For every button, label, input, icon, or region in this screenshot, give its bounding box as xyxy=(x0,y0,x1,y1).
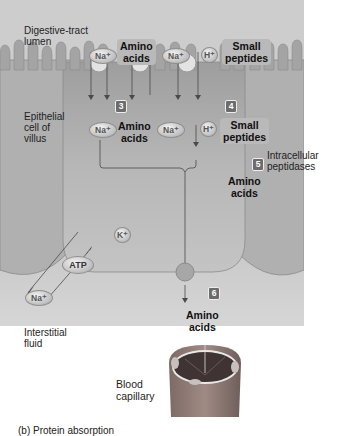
blood-capillary-label: Blood capillary xyxy=(116,378,155,402)
step-4-badge: 4 xyxy=(225,100,237,113)
amino-acids-interstitial-label: Amino acids xyxy=(186,309,219,333)
small-peptides-cell-label: Small peptides xyxy=(220,118,269,144)
na-ion-lumen-1: Na⁺ xyxy=(89,48,117,64)
amino-acids-step5-label: Amino acids xyxy=(228,175,261,199)
h-ion-lumen: H⁺ xyxy=(201,47,218,63)
na-ion-lumen-2: Na⁺ xyxy=(162,48,190,64)
step-5-badge: 5 xyxy=(252,158,264,171)
interstitial-fluid-label: Interstitial fluid xyxy=(24,327,67,349)
epithelial-cell-label: Epithelial cell of villus xyxy=(24,111,65,144)
na-ion-interstitial: Na⁺ xyxy=(25,290,53,306)
amino-acids-cell-label: Amino acids xyxy=(118,120,151,144)
step-6-badge: 6 xyxy=(208,287,220,300)
figure-caption: (b) Protein absorption xyxy=(18,425,114,436)
na-ion-cell-2: Na⁺ xyxy=(157,122,185,138)
intracellular-peptidases-label: Intracellular peptidases xyxy=(267,150,319,172)
k-ion: K⁺ xyxy=(114,227,131,243)
atp-badge: ATP xyxy=(62,256,94,274)
amino-acids-lumen-label: Amino acids xyxy=(117,39,156,65)
lumen-label: Digestive-tract lumen xyxy=(24,25,88,47)
blood-capillary-illustration xyxy=(165,345,245,417)
h-ion-cell: H⁺ xyxy=(200,121,217,137)
small-peptides-lumen-label: Small peptides xyxy=(222,39,271,65)
step-3-badge: 3 xyxy=(115,100,127,113)
na-ion-cell-1: Na⁺ xyxy=(89,122,117,138)
